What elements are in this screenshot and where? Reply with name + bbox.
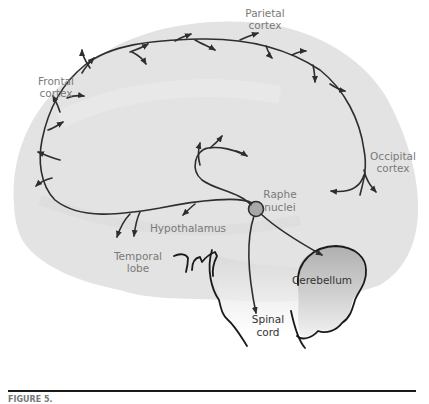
caption-divider — [8, 390, 416, 392]
svg-text:cord: cord — [257, 326, 280, 338]
svg-text:lobe: lobe — [127, 262, 149, 274]
label-spinal-cord: Spinal cord — [252, 313, 284, 338]
figure-caption: FIGURE 5. — [8, 395, 53, 404]
svg-text:nuclei: nuclei — [264, 201, 295, 213]
label-hypothalamus: Hypothalamus — [150, 222, 226, 234]
svg-text:cortex: cortex — [376, 162, 409, 174]
svg-text:Temporal: Temporal — [113, 250, 162, 262]
label-occipital-cortex: Occipital cortex — [370, 150, 416, 174]
svg-text:Occipital: Occipital — [370, 150, 416, 162]
label-frontal-cortex: Frontal cortex — [38, 75, 74, 99]
label-cerebellum: Cerebellum — [292, 274, 352, 286]
svg-text:cortex: cortex — [39, 87, 72, 99]
svg-text:Spinal: Spinal — [252, 313, 284, 325]
label-raphe-nuclei: Raphe nuclei — [263, 188, 296, 213]
svg-text:Parietal: Parietal — [245, 7, 284, 19]
label-parietal-cortex: Parietal cortex — [245, 7, 284, 31]
svg-text:cortex: cortex — [248, 19, 281, 31]
svg-text:Frontal: Frontal — [38, 75, 74, 87]
cerebellum-shape — [298, 247, 366, 338]
svg-text:Raphe: Raphe — [263, 188, 296, 200]
